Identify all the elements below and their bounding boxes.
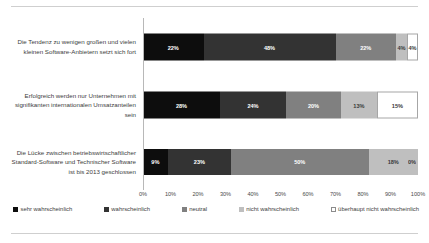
bottom-divider-rule	[11, 233, 418, 234]
segment-value-label: 4%	[408, 44, 416, 50]
segment-value-label: 28%	[176, 102, 187, 108]
x-axis-ticks: 0%10%20%30%40%50%60%70%80%90%100%	[143, 190, 418, 202]
category-label: Erfolgreich werden nur Unternehmen mit s…	[11, 91, 143, 120]
bar-rows: Die Tendenz zu wenigen großen und vielen…	[11, 18, 418, 190]
legend-swatch-icon	[239, 207, 244, 212]
x-axis-tick-label: 100%	[411, 191, 425, 197]
stacked-bar: 9%23%50%18%0%	[143, 149, 418, 175]
bar-track: 28%24%20%13%15%	[143, 76, 418, 134]
bar-row: Erfolgreich werden nur Unternehmen mit s…	[11, 76, 418, 134]
bar-segment[interactable]: 28%	[143, 92, 220, 119]
legend-label: sehr wahrscheinlich	[21, 206, 73, 212]
x-axis-tick-label: 40%	[247, 191, 258, 197]
chart-figure: Die Tendenz zu wenigen großen und vielen…	[0, 0, 429, 243]
plot-area: Die Tendenz zu wenigen großen und vielen…	[11, 18, 418, 190]
legend-label: wahrscheinlich	[111, 206, 150, 212]
legend-label: nicht wahrscheinlich	[246, 206, 299, 212]
segment-value-label: 20%	[308, 102, 319, 108]
segment-value-label: 15%	[392, 102, 403, 108]
bar-segment[interactable]: 24%	[220, 92, 286, 119]
segment-value-label: 4%	[397, 44, 405, 50]
segment-value-label: 13%	[353, 102, 364, 108]
legend-item[interactable]: wahrscheinlich	[104, 206, 150, 212]
bar-segment[interactable]: 48%	[204, 34, 336, 61]
bar-segment[interactable]: 4%	[407, 34, 418, 61]
segment-value-label: 22%	[168, 44, 179, 50]
x-axis-tick-label: 70%	[330, 191, 341, 197]
bar-segment[interactable]: 22%	[143, 34, 204, 61]
legend-swatch-icon	[182, 207, 187, 212]
bar-segment[interactable]: 23%	[168, 149, 231, 175]
bar-row: Die Lücke zwischen betriebswirtschaftlic…	[11, 134, 418, 190]
top-divider-rule	[11, 6, 418, 7]
category-label: Die Lücke zwischen betriebswirtschaftlic…	[11, 148, 143, 177]
x-axis-tick-label: 80%	[357, 191, 368, 197]
bar-segment[interactable]: 20%	[286, 92, 341, 119]
legend-item[interactable]: überhaupt nicht wahrscheinlich	[331, 206, 419, 212]
bar-track: 9%23%50%18%0%	[143, 134, 418, 190]
legend-swatch-icon	[331, 207, 336, 212]
category-label: Die Tendenz zu wenigen großen und vielen…	[11, 37, 143, 56]
x-axis-tick-label: 60%	[302, 191, 313, 197]
segment-value-label: 50%	[294, 159, 305, 165]
x-axis-tick-label: 50%	[275, 191, 286, 197]
legend-swatch-icon	[13, 207, 18, 212]
x-axis-tick-label: 30%	[220, 191, 231, 197]
bar-segment[interactable]: 22%	[336, 34, 397, 61]
bar-segment[interactable]: 15%	[377, 92, 418, 119]
x-axis: 0%10%20%30%40%50%60%70%80%90%100%	[11, 190, 418, 202]
legend-item[interactable]: neutral	[182, 206, 208, 212]
segment-value-label: 24%	[247, 102, 258, 108]
bar-row: Die Tendenz zu wenigen großen und vielen…	[11, 18, 418, 76]
segment-value-label: 18%	[388, 159, 399, 165]
legend-item[interactable]: sehr wahrscheinlich	[13, 206, 72, 212]
x-axis-tick-label: 0%	[139, 191, 147, 197]
legend-item[interactable]: nicht wahrscheinlich	[239, 206, 299, 212]
segment-value-label: 48%	[264, 44, 275, 50]
segment-value-label: 9%	[151, 159, 159, 165]
bar-segment[interactable]: 4%	[396, 34, 407, 61]
x-axis-tick-label: 10%	[165, 191, 176, 197]
bar-segment[interactable]: 0%	[408, 149, 416, 175]
segment-value-label: 22%	[360, 44, 371, 50]
legend-label: neutral	[189, 206, 207, 212]
legend-label: überhaupt nicht wahrscheinlich	[338, 206, 419, 212]
y-axis-line	[143, 18, 144, 190]
x-axis-tick-label: 20%	[192, 191, 203, 197]
bar-segment[interactable]: 13%	[341, 92, 377, 119]
bar-track: 22%48%22%4%4%	[143, 18, 418, 76]
bar-segment[interactable]: 9%	[143, 149, 168, 175]
segment-value-label: 23%	[194, 159, 205, 165]
legend-swatch-icon	[104, 207, 109, 212]
stacked-bar: 22%48%22%4%4%	[143, 34, 418, 61]
chart-legend: sehr wahrscheinlichwahrscheinlichneutral…	[13, 206, 419, 212]
bar-segment[interactable]: 50%	[231, 149, 369, 175]
stacked-bar: 28%24%20%13%15%	[143, 92, 418, 119]
x-axis-tick-label: 90%	[385, 191, 396, 197]
